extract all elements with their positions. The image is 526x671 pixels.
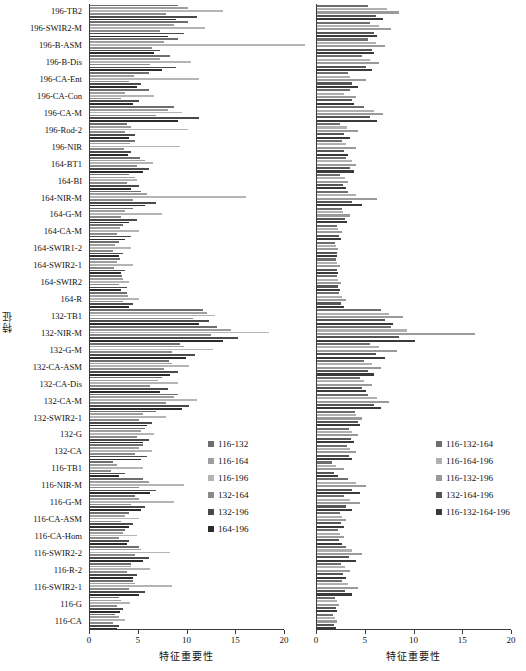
bar (317, 181, 348, 183)
bar (317, 336, 399, 338)
bar (317, 245, 336, 247)
bar (317, 204, 362, 206)
bar (90, 337, 238, 339)
bar (90, 535, 137, 537)
bar (90, 439, 149, 441)
bar (317, 242, 335, 244)
bar (90, 585, 172, 587)
legend-label: 132-164 (218, 488, 249, 502)
bar (90, 100, 139, 102)
x-axis-tick (414, 630, 415, 634)
bar (317, 367, 381, 369)
category-label: 116-TB1 (0, 464, 82, 473)
bar (90, 399, 197, 401)
bar (317, 66, 366, 68)
bar (90, 436, 137, 438)
bar (317, 157, 346, 159)
bar (90, 177, 135, 179)
bar (317, 289, 340, 291)
bar (90, 318, 193, 320)
bar (90, 301, 123, 303)
bar (90, 78, 199, 80)
bar (317, 93, 344, 95)
bar (90, 202, 156, 204)
bar (317, 394, 368, 396)
bar (90, 67, 176, 69)
bar (90, 315, 215, 317)
bar (317, 424, 360, 426)
x-axis-tick-label: 0 (314, 635, 319, 645)
bar (90, 241, 119, 243)
bar (90, 360, 169, 362)
bar (90, 614, 115, 616)
bar (317, 309, 381, 311)
bar (317, 170, 354, 172)
bar (90, 171, 143, 173)
bar (90, 608, 123, 610)
bar (90, 117, 199, 119)
category-label: 116-SWIR2-2 (0, 549, 82, 558)
bar (317, 522, 341, 524)
bar (90, 292, 127, 294)
bar (90, 270, 125, 272)
bar (317, 505, 346, 507)
bar (90, 287, 127, 289)
bar (90, 278, 123, 280)
bar (317, 292, 339, 294)
category-label: 164-SWIR2 (0, 278, 82, 287)
bar (90, 196, 246, 198)
legend-swatch (208, 441, 214, 447)
category-label: 132-NIR-M (0, 329, 82, 338)
bar (90, 501, 174, 503)
bar (90, 298, 139, 300)
x-axis-tick (316, 630, 317, 634)
bar (90, 484, 184, 486)
bar (90, 323, 199, 325)
legend-swatch (436, 458, 442, 464)
category-label: 196-CA-Con (0, 92, 82, 101)
x-axis-tick (462, 630, 463, 634)
bar (317, 533, 340, 535)
bar (317, 79, 366, 81)
bar (317, 225, 337, 227)
bar (317, 431, 352, 433)
bar (317, 353, 376, 355)
bar (90, 210, 125, 212)
bar (317, 489, 352, 491)
bar (317, 150, 344, 152)
bar (317, 248, 338, 250)
bar (90, 123, 127, 125)
bar (317, 38, 368, 40)
bar (317, 221, 347, 223)
bar (317, 434, 358, 436)
bar (90, 430, 141, 432)
bar (317, 620, 337, 622)
bar (317, 485, 366, 487)
bar (317, 272, 338, 274)
bar (90, 89, 149, 91)
bar (90, 244, 115, 246)
bar (90, 526, 129, 528)
bar (317, 147, 356, 149)
bar (90, 109, 168, 111)
bar (90, 563, 131, 565)
bar (90, 329, 231, 331)
bar (317, 350, 397, 352)
bar (90, 303, 133, 305)
bar (90, 546, 139, 548)
bar (90, 95, 154, 97)
bar (317, 583, 348, 585)
bar (317, 133, 344, 135)
bar (317, 563, 341, 565)
bar (317, 543, 342, 545)
bar (317, 360, 364, 362)
bar (90, 140, 135, 142)
category-label: 196-TB2 (0, 7, 82, 16)
x-axis-tick (284, 630, 285, 634)
bar (90, 13, 166, 15)
bar (90, 143, 130, 145)
bar (90, 272, 121, 274)
bar (90, 281, 129, 283)
bar (317, 607, 336, 609)
bar (90, 487, 139, 489)
